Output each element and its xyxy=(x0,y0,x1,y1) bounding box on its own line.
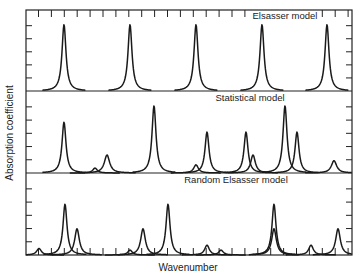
x-axis-label: Wavenumber xyxy=(158,262,218,273)
y-axis-label: Absorption coefficient xyxy=(4,85,15,181)
absorption-curves xyxy=(26,25,352,255)
panel-title-random-elsasser: Random Elsasser model xyxy=(184,174,288,185)
band-model-figure: Elsasser model Statistical model Random … xyxy=(0,0,361,280)
panel-frames xyxy=(26,10,352,255)
axis-ticks xyxy=(26,10,352,255)
panel-title-elsasser: Elsasser model xyxy=(253,10,318,21)
panel-title-statistical: Statistical model xyxy=(215,92,284,103)
